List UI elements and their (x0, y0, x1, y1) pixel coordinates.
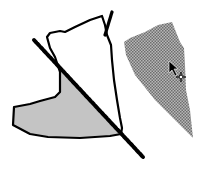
moved-piece[interactable] (124, 22, 193, 138)
boot-tab-mark (105, 12, 112, 35)
cut-region (13, 60, 120, 138)
boot-split-illustration (0, 0, 205, 170)
